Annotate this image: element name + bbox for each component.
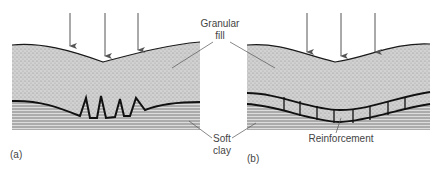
panel-a-label: (a) [10,149,22,160]
soft-clay-leader-b [232,123,256,138]
diagram-canvas: (a) (b) Granular fill Soft [0,0,442,178]
granular-fill-label-line2: fill [215,30,224,41]
soft-clay-label-line2: clay [213,145,231,156]
reinforcement-label: Reinforcement [308,133,373,144]
granular-fill-label-line1: Granular [201,18,241,29]
panel-b-label: (b) [247,153,259,164]
panel-a: (a) [10,13,200,160]
soft-clay-label-line1: Soft [213,133,231,144]
